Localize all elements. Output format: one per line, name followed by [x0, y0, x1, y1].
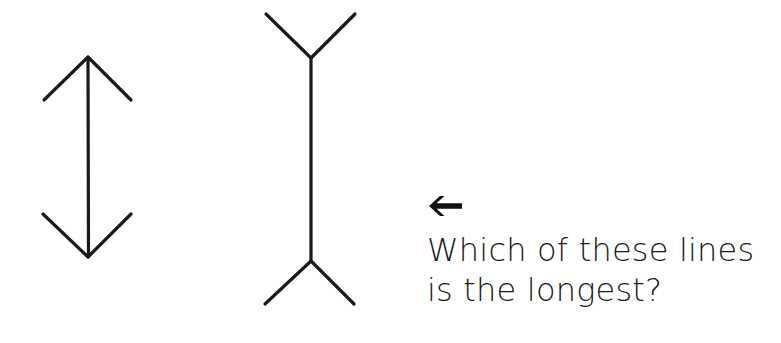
right-line-bottom-fins [265, 261, 354, 304]
left-line-figure [43, 57, 131, 257]
left-line-shaft [88, 57, 89, 257]
right-line-top-fins [266, 14, 355, 58]
caption-line-1: Which of these lines [427, 230, 754, 270]
caption-question: Which of these lines is the longest? [427, 230, 754, 310]
caption-line-2: is the longest? [427, 270, 754, 310]
right-line-figure [265, 14, 355, 304]
left-arrow-icon [428, 195, 464, 217]
